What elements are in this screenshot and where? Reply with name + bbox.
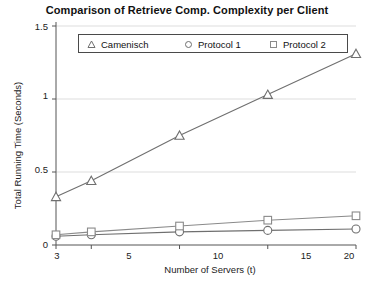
legend-item-protocol-1[interactable]: Protocol 1 bbox=[184, 37, 241, 52]
series-line-1 bbox=[56, 229, 356, 236]
data-point-triangle bbox=[51, 192, 60, 200]
data-point-square bbox=[176, 222, 184, 230]
chart-container: Comparison of Retrieve Comp. Complexity … bbox=[0, 0, 374, 288]
data-point-circle bbox=[352, 225, 360, 233]
data-point-square bbox=[87, 228, 95, 236]
legend-label-protocol-1: Protocol 1 bbox=[198, 39, 241, 50]
data-point-triangle bbox=[351, 49, 360, 57]
data-point-square bbox=[264, 216, 272, 224]
data-point-triangle bbox=[175, 131, 184, 139]
legend-label-camenisch: Camenisch bbox=[101, 39, 149, 50]
data-point-triangle bbox=[87, 176, 96, 184]
legend-item-protocol-2[interactable]: Protocol 2 bbox=[269, 37, 326, 52]
legend-label-protocol-2: Protocol 2 bbox=[283, 39, 326, 50]
triangle-marker-icon bbox=[87, 40, 96, 49]
data-point-square bbox=[52, 231, 60, 239]
data-point-circle bbox=[264, 226, 272, 234]
data-point-square bbox=[352, 212, 360, 220]
circle-marker-icon bbox=[184, 40, 193, 49]
series-line-0 bbox=[56, 54, 356, 197]
legend-item-camenisch[interactable]: Camenisch bbox=[87, 37, 149, 52]
data-point-triangle bbox=[263, 90, 272, 98]
square-marker-icon bbox=[269, 40, 278, 49]
chart-legend: Camenisch Protocol 1 Protocol 2 bbox=[78, 34, 348, 53]
